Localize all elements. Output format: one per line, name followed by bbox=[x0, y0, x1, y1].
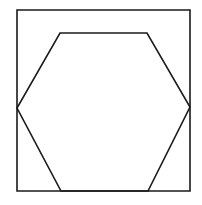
figure-background bbox=[0, 0, 202, 205]
geometric-figure bbox=[0, 0, 202, 205]
